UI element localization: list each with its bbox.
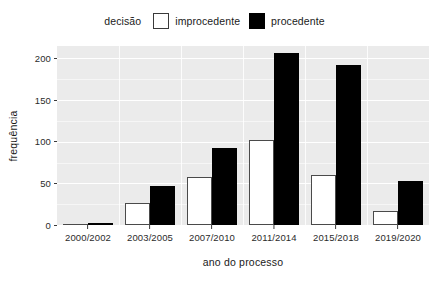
x-axis: 2000/20022003/20052007/20102011/20142015… xyxy=(57,225,429,253)
x-tick: 2019/2020 xyxy=(375,225,421,243)
bar-improcedente-2011-2014 xyxy=(249,140,274,225)
y-tick: 50 xyxy=(40,177,57,189)
legend-label-improcedente: improcedente xyxy=(175,15,240,27)
x-tick-label: 2007/2010 xyxy=(189,232,235,243)
y-axis-title-text: frequência xyxy=(7,110,19,161)
y-tick-label: 0 xyxy=(46,220,51,231)
bar-improcedente-2007-2010 xyxy=(187,177,212,225)
bar-procedente-2007-2010 xyxy=(212,148,237,225)
bar-procedente-2015-2018 xyxy=(336,65,361,225)
legend-label-procedente: procedente xyxy=(271,15,325,27)
x-tick-label: 2003/2005 xyxy=(127,232,173,243)
y-tick-label: 50 xyxy=(40,178,51,189)
x-tick-mark xyxy=(273,225,274,229)
x-tick: 2000/2002 xyxy=(65,225,111,243)
x-axis-title: ano do processo xyxy=(57,256,429,268)
y-tick: 150 xyxy=(35,94,57,106)
bar-procedente-2003-2005 xyxy=(150,186,175,225)
x-tick: 2003/2005 xyxy=(127,225,173,243)
x-tick-label: 2015/2018 xyxy=(313,232,359,243)
y-tick: 0 xyxy=(46,219,57,231)
x-tick-mark xyxy=(212,225,213,229)
y-tick: 200 xyxy=(35,52,57,64)
x-tick-label: 2019/2020 xyxy=(375,232,421,243)
bar-improcedente-2015-2018 xyxy=(311,175,336,225)
x-tick-label: 2011/2014 xyxy=(251,232,296,243)
bar-chart: decisão improcedente procedente frequênc… xyxy=(0,0,429,281)
y-axis-title: frequência xyxy=(6,46,20,225)
x-tick-mark xyxy=(336,225,337,229)
bar-improcedente-2019-2020 xyxy=(373,211,398,225)
legend-item-improcedente[interactable]: improcedente xyxy=(153,13,240,29)
y-tick: 100 xyxy=(35,136,57,148)
x-tick: 2015/2018 xyxy=(313,225,359,243)
x-tick: 2007/2010 xyxy=(189,225,235,243)
open-square-icon xyxy=(153,13,169,29)
y-tick-label: 150 xyxy=(35,95,51,106)
bar-improcedente-2003-2005 xyxy=(125,203,150,225)
filled-square-icon xyxy=(249,13,265,29)
x-tick-label: 2000/2002 xyxy=(65,232,111,243)
y-tick-label: 200 xyxy=(35,53,51,64)
y-tick-label: 100 xyxy=(35,136,51,147)
x-tick: 2011/2014 xyxy=(251,225,296,243)
bars-layer xyxy=(57,46,429,225)
y-axis: 050100150200 xyxy=(20,46,57,225)
plot-panel xyxy=(57,46,429,225)
x-tick-mark xyxy=(88,225,89,229)
legend-item-procedente[interactable]: procedente xyxy=(249,13,325,29)
legend-title: decisão xyxy=(104,15,141,27)
x-tick-mark xyxy=(398,225,399,229)
bar-procedente-2019-2020 xyxy=(398,181,423,225)
bar-procedente-2011-2014 xyxy=(274,53,299,225)
chart-legend: decisão improcedente procedente xyxy=(0,10,429,32)
x-tick-mark xyxy=(150,225,151,229)
